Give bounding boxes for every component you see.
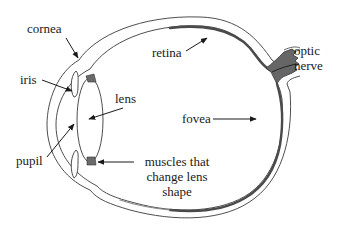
label-fovea: fovea (182, 111, 256, 126)
svg-text:optic: optic (294, 43, 320, 58)
svg-text:fovea: fovea (182, 111, 211, 126)
label-muscles: muscles that change lens shape (98, 154, 210, 199)
svg-text:shape: shape (162, 184, 192, 199)
label-pupil: pupil (16, 124, 74, 168)
label-iris: iris (20, 72, 72, 91)
svg-text:muscles that: muscles that (145, 154, 210, 169)
svg-text:change lens: change lens (146, 169, 207, 184)
lens (77, 78, 103, 162)
label-retina: retina (152, 38, 207, 60)
label-optic-nerve: optic nerve (294, 43, 323, 73)
eye-diagram: cornea iris lens pupil retina optic nerv… (0, 0, 340, 238)
svg-text:pupil: pupil (16, 153, 43, 168)
label-cornea: cornea (27, 21, 78, 58)
svg-text:cornea: cornea (27, 21, 62, 36)
svg-text:nerve: nerve (294, 58, 323, 73)
svg-text:retina: retina (152, 45, 182, 60)
svg-text:iris: iris (20, 72, 37, 87)
svg-text:lens: lens (115, 91, 136, 106)
